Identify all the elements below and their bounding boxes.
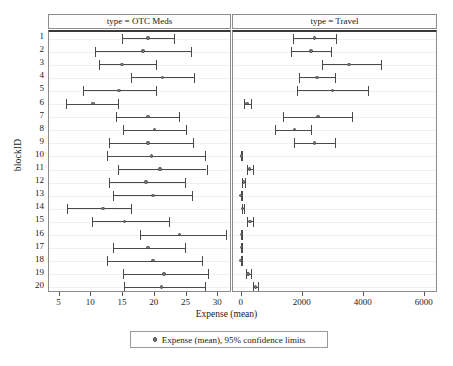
interval-cap-upper (335, 138, 336, 148)
interval-cap-lower (122, 34, 123, 44)
interval-cap-upper (331, 47, 332, 57)
interval-cap-upper (156, 60, 157, 70)
mean-marker (120, 63, 123, 66)
interval-bar (109, 143, 193, 144)
interval-cap-upper (192, 191, 193, 201)
mean-marker (101, 207, 104, 210)
interval-bar (67, 208, 131, 209)
interval-cap-upper (186, 125, 187, 135)
interval-bar (140, 235, 226, 236)
y-tick-label-6: 6 (18, 98, 44, 107)
y-tick-label-20: 20 (18, 281, 44, 290)
y-tick-label-7: 7 (18, 111, 44, 120)
interval-cap-lower (95, 47, 96, 57)
interval-bar (107, 156, 204, 157)
interval-cap-upper (194, 73, 195, 83)
interval-cap-lower (140, 230, 141, 240)
mean-marker (162, 272, 165, 275)
y-tick-label-2: 2 (18, 45, 44, 54)
mean-marker (248, 220, 251, 223)
interval-cap-lower (124, 282, 125, 292)
y-tick-label-12: 12 (18, 176, 44, 185)
interval-cap-upper (156, 86, 157, 96)
x-tick-mark (241, 292, 242, 296)
confidence-interval-panel-chart: blockID 1234567891011121314151617181920 … (0, 0, 453, 366)
confidence-interval (233, 99, 436, 110)
confidence-interval (49, 112, 230, 123)
x-tick-mark (302, 292, 303, 296)
y-tick-label-8: 8 (18, 124, 44, 133)
interval-cap-upper (207, 165, 208, 175)
interval-cap-upper (179, 112, 180, 122)
confidence-interval (233, 203, 436, 214)
interval-cap-lower (118, 165, 119, 175)
confidence-interval (49, 230, 230, 241)
y-tick-label-10: 10 (18, 150, 44, 159)
y-tick-label-11: 11 (18, 163, 44, 172)
confidence-interval (233, 138, 436, 149)
confidence-interval (49, 269, 230, 280)
mean-marker (315, 76, 318, 79)
confidence-interval (49, 203, 230, 214)
mean-marker (246, 272, 249, 275)
x-tick-mark (363, 292, 364, 296)
confidence-interval (49, 256, 230, 267)
interval-cap-lower (83, 86, 84, 96)
x-tick-mark (217, 292, 218, 296)
interval-cap-lower (322, 60, 323, 70)
y-tick-label-17: 17 (18, 242, 44, 251)
mean-marker (239, 194, 242, 197)
interval-cap-upper (118, 99, 119, 109)
interval-cap-upper (205, 151, 206, 161)
confidence-interval (233, 33, 436, 44)
interval-cap-upper (311, 125, 312, 135)
interval-bar (92, 221, 169, 222)
interval-cap-lower (297, 86, 298, 96)
confidence-interval (233, 269, 436, 280)
mean-marker (150, 154, 153, 157)
interval-cap-lower (113, 243, 114, 253)
interval-cap-lower (293, 34, 294, 44)
mean-marker (151, 194, 154, 197)
interval-cap-upper (335, 73, 336, 83)
confidence-interval (233, 151, 436, 162)
interval-cap-lower (116, 112, 117, 122)
y-tick-label-15: 15 (18, 215, 44, 224)
x-tick-mark (122, 292, 123, 296)
panel-header-travel: type = Travel (232, 14, 437, 29)
mean-marker (146, 246, 149, 249)
mean-marker (141, 49, 144, 52)
mean-marker (347, 63, 350, 66)
mean-marker (331, 89, 334, 92)
confidence-interval (233, 125, 436, 136)
interval-cap-upper (202, 256, 203, 266)
legend-marker-icon (153, 337, 157, 341)
mean-marker (91, 102, 94, 105)
confidence-interval (49, 33, 230, 44)
y-tick-label-16: 16 (18, 229, 44, 238)
interval-cap-upper (368, 86, 369, 96)
x-tick-mark (424, 292, 425, 296)
interval-cap-lower (299, 73, 300, 83)
interval-cap-upper (251, 269, 252, 279)
interval-cap-upper (185, 178, 186, 188)
mean-marker (313, 141, 316, 144)
interval-cap-upper (208, 269, 209, 279)
interval-cap-lower (107, 151, 108, 161)
legend-label: Expense (mean), 95% confidence limits (162, 335, 306, 345)
interval-cap-lower (92, 217, 93, 227)
x-axis-title: Expense (mean) (0, 309, 453, 319)
confidence-interval (49, 216, 230, 227)
interval-cap-upper (251, 99, 252, 109)
x-tick-label-2000: 2000 (282, 297, 322, 307)
confidence-interval (49, 59, 230, 70)
mean-marker (146, 141, 149, 144)
confidence-interval (49, 243, 230, 254)
interval-cap-upper (174, 34, 175, 44)
mean-marker (123, 220, 126, 223)
interval-bar (124, 287, 205, 288)
interval-cap-upper (336, 34, 337, 44)
interval-cap-lower (283, 112, 284, 122)
confidence-interval (233, 72, 436, 83)
x-tick-mark (186, 292, 187, 296)
